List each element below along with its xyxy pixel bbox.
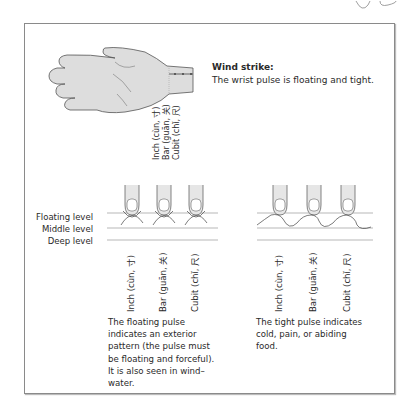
hand-illustration (45, 40, 205, 120)
decorative-curves (350, 0, 406, 19)
floating-pulse-diagram (105, 185, 220, 250)
floating-position-bar: Bar (guān, 关) (156, 252, 168, 312)
level-middle: Middle level (0, 224, 93, 234)
tight-position-inch: Inch (cùn, 寸) (272, 255, 284, 312)
floating-position-cubit: Cubit (chǐ, 尺) (188, 253, 200, 312)
tight-pulse-caption: The tight pulse indicates cold, pain, or… (256, 316, 368, 353)
level-deep: Deep level (0, 236, 93, 246)
floating-pulse-caption: The floating pulse indicates an exterior… (108, 316, 220, 389)
tight-position-cubit: Cubit (chǐ, 尺) (340, 253, 352, 312)
level-floating: Floating level (0, 212, 93, 222)
tight-position-bar: Bar (guān, 关) (306, 252, 318, 312)
tight-pulse-diagram (255, 185, 375, 250)
wind-strike-text: The wrist pulse is floating and tight. (212, 75, 374, 85)
floating-position-inch: Inch (cùn, 寸) (124, 255, 136, 312)
wind-strike-title: Wind strike: (212, 62, 274, 72)
hand-position-cubit: Cubit (chǐ, 尺) (170, 105, 181, 160)
